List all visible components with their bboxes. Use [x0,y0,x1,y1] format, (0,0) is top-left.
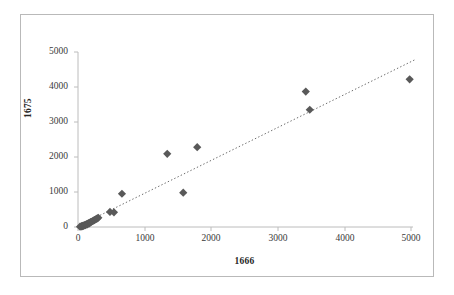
axis-lines [78,52,413,227]
x-tick-label-2000: 2000 [191,233,231,243]
x-tick-label-0: 0 [58,233,98,243]
y-axis-title: 1675 [23,98,33,118]
y-axis-ticks [74,52,78,227]
chart-figure: 5000 4000 3000 2000 1000 0 0 1000 2000 3… [0,0,454,295]
data-point [179,189,187,197]
data-point [406,75,414,83]
y-tick-label-0: 0 [34,221,68,231]
scatter-plot-canvas [0,0,454,295]
data-point [193,143,201,151]
x-axis-title: 1666 [78,256,411,266]
trendline [81,60,415,225]
x-tick-label-5000: 5000 [391,233,431,243]
x-tick-label-4000: 4000 [325,233,365,243]
data-point-markers [76,75,414,231]
data-point [118,190,126,198]
y-tick-label-4000: 4000 [34,81,68,91]
y-tick-label-5000: 5000 [34,46,68,56]
x-tick-label-3000: 3000 [258,233,298,243]
x-tick-label-1000: 1000 [125,233,165,243]
data-point [163,150,171,158]
y-tick-label-3000: 3000 [34,116,68,126]
y-tick-label-2000: 2000 [34,151,68,161]
data-point [302,87,310,95]
y-tick-label-1000: 1000 [34,186,68,196]
x-axis-ticks [78,227,411,231]
